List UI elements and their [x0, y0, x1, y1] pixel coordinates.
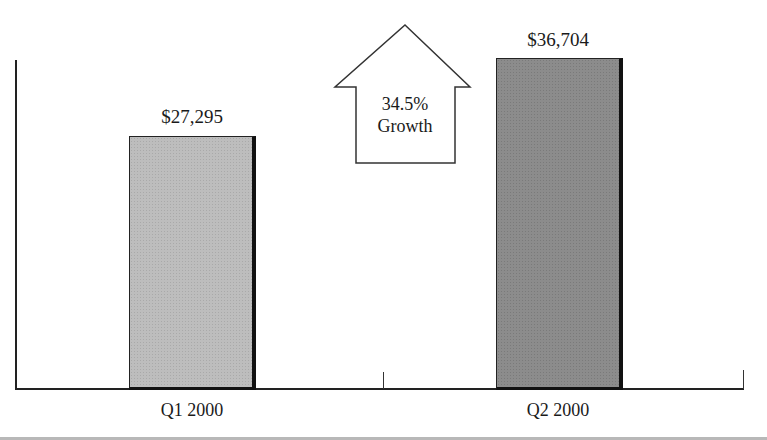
- category-label-q2: Q2 2000: [478, 400, 638, 421]
- bar-value-label-q1: $27,295: [112, 106, 272, 128]
- category-label-q1: Q1 2000: [112, 400, 272, 421]
- growth-percentage: 34.5%: [355, 93, 455, 115]
- x-axis-tick-middle: [383, 372, 384, 389]
- y-axis: [15, 60, 17, 390]
- x-axis-tick-right: [743, 370, 744, 389]
- x-axis: [15, 388, 744, 390]
- bar-q2-2000: [496, 58, 623, 390]
- bar-value-label-q2: $36,704: [478, 29, 638, 51]
- growth-label: Growth: [355, 115, 455, 137]
- bar-q1-2000: [129, 136, 256, 390]
